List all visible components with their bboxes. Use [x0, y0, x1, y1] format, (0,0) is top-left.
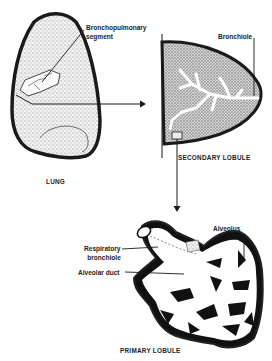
label-alveolar-duct: Alveolar duct: [78, 268, 120, 277]
label-line-1: Bronchopulmonary: [86, 23, 147, 32]
label-respiratory-bronchiole: Respiratory bronchiole: [84, 244, 121, 262]
caption-lung: LUNG: [46, 177, 65, 186]
label-line-1: Respiratory: [84, 244, 120, 253]
caption-primary-lobule: PRIMARY LOBULE: [120, 346, 181, 355]
secondary-lobule-illustration: [162, 34, 261, 212]
caption-secondary-lobule: SECONDARY LOBULE: [178, 153, 250, 162]
label-line-2: bronchiole: [84, 253, 121, 262]
primary-lobule-illustration: [122, 221, 263, 347]
label-bronchiole: Bronchiole: [218, 32, 252, 41]
label-alveolus: Alveolus: [213, 224, 240, 233]
diagram-canvas: [0, 0, 272, 361]
label-bronchopulmonary-segment: Bronchopulmonary segment: [86, 23, 147, 41]
label-line-2: segment: [86, 32, 113, 41]
